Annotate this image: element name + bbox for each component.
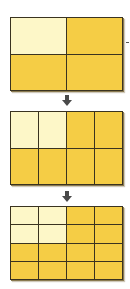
dark-cell: [67, 262, 94, 279]
tick-mark: [126, 42, 129, 43]
dark-cell: [95, 112, 122, 148]
dark-cell: [67, 207, 94, 224]
down-arrow-icon: [61, 93, 73, 105]
dark-cell: [11, 55, 66, 91]
dark-cell: [67, 112, 94, 148]
dark-cell: [67, 55, 122, 91]
light-cell: [11, 18, 66, 54]
dark-cell: [67, 244, 94, 261]
light-cell: [39, 112, 66, 148]
dark-cell: [67, 225, 94, 242]
dark-cell: [11, 244, 38, 261]
dark-cell: [39, 262, 66, 279]
light-cell: [11, 207, 38, 224]
dark-cell: [95, 149, 122, 185]
dark-cell: [67, 18, 122, 54]
dark-cell: [39, 149, 66, 185]
dark-cell: [95, 225, 122, 242]
grid-stage-1: [10, 17, 123, 91]
grid-stage-3: [10, 206, 123, 280]
light-cell: [11, 225, 38, 242]
light-cell: [39, 225, 66, 242]
grid-stage-2: [10, 111, 123, 185]
dark-cell: [11, 262, 38, 279]
light-cell: [11, 112, 38, 148]
dark-cell: [95, 244, 122, 261]
dark-cell: [67, 149, 94, 185]
dark-cell: [11, 149, 38, 185]
down-arrow-icon: [61, 189, 73, 201]
dark-cell: [95, 262, 122, 279]
light-cell: [39, 207, 66, 224]
dark-cell: [95, 207, 122, 224]
dark-cell: [39, 244, 66, 261]
